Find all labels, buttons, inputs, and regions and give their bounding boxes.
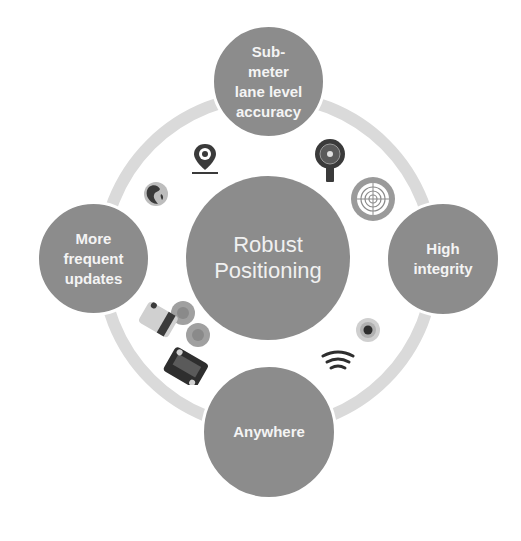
wireless-signal-icon bbox=[320, 348, 356, 374]
node-label-line: integrity bbox=[413, 259, 472, 279]
node-label-line: Sub- bbox=[252, 42, 285, 62]
node-high-integrity: High integrity bbox=[385, 201, 501, 317]
node-label-line: updates bbox=[65, 269, 123, 289]
node-label-line: meter bbox=[248, 62, 289, 82]
node-label-line: Anywhere bbox=[233, 422, 305, 442]
node-sub-meter-accuracy: Sub- meter lane level accuracy bbox=[211, 24, 326, 139]
node-label-line: High bbox=[426, 239, 459, 259]
node-label-line: More bbox=[76, 229, 112, 249]
location-pin-icon bbox=[190, 142, 220, 176]
center-label-line: Robust bbox=[233, 232, 303, 258]
connected-cars-icon bbox=[135, 295, 215, 385]
center-label-line: Positioning bbox=[214, 258, 322, 284]
node-label-line: frequent bbox=[64, 249, 124, 269]
node-anywhere: Anywhere bbox=[201, 364, 337, 500]
globe-icon bbox=[143, 181, 169, 207]
signal-dot-icon bbox=[355, 317, 381, 343]
node-label-line: lane level bbox=[235, 82, 303, 102]
node-label-line: accuracy bbox=[236, 102, 301, 122]
radar-target-icon bbox=[350, 176, 396, 222]
magnifier-target-icon bbox=[313, 138, 347, 184]
node-more-frequent-updates: More frequent updates bbox=[36, 201, 151, 316]
